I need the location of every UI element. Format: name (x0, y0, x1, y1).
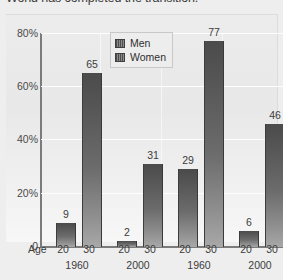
chart-title: World has completed the transition. (6, 0, 282, 5)
x-tick-age-3: 20 (113, 243, 135, 255)
legend-item-men[interactable]: Men (115, 36, 166, 50)
x-tick-age-4: 30 (139, 243, 161, 255)
y-axis-line (40, 33, 42, 247)
x-tick-year-2: 2000 (119, 259, 157, 271)
x-tick-age-6: 30 (200, 243, 222, 255)
bar-women-30-2000[interactable] (265, 124, 283, 247)
bar-women-30-1960[interactable] (204, 41, 224, 247)
x-tick-year-4: 2000 (241, 259, 279, 271)
x-tick-year-1: 1960 (58, 259, 96, 271)
bar-value-men-30-2000: 31 (138, 149, 168, 161)
legend-label-women: Women (130, 50, 166, 64)
x-tick-age-7: 20 (235, 243, 257, 255)
x-axis-age-caption: Age (28, 243, 47, 255)
x-tick-age-1: 20 (52, 243, 74, 255)
legend-swatch-men-icon (115, 39, 125, 48)
bar-men-30-1960[interactable] (82, 73, 102, 247)
x-tick-age-8: 30 (261, 243, 283, 255)
x-tick-year-3: 1960 (180, 259, 218, 271)
bar-women-20-1960[interactable] (178, 169, 198, 247)
bar-value-men-20-1960: 9 (51, 208, 81, 220)
bar-value-women-30-1960: 77 (199, 26, 229, 38)
x-axis-labels: Age 20 30 20 30 20 30 20 30 1960 2000 19… (6, 243, 283, 277)
legend-item-women[interactable]: Women (115, 50, 166, 64)
y-tick-40: 40% (8, 133, 38, 145)
gridline-40 (41, 139, 283, 140)
bar-men-30-2000[interactable] (143, 164, 163, 247)
bar-value-women-20-1960: 29 (173, 154, 203, 166)
legend-label-men: Men (130, 36, 150, 50)
bar-value-men-20-2000: 2 (112, 226, 142, 238)
x-tick-age-2: 30 (78, 243, 100, 255)
x-tick-age-5: 20 (174, 243, 196, 255)
bar-value-women-20-2000: 6 (234, 216, 264, 228)
y-tick-20: 20% (8, 187, 38, 199)
bar-value-women-30-2000: 46 (260, 109, 283, 121)
legend-swatch-women-icon (115, 53, 125, 62)
chart-legend: Men Women (110, 32, 173, 68)
gridline-60 (41, 86, 283, 87)
y-tick-60: 60% (8, 80, 38, 92)
bar-value-men-30-1960: 65 (77, 58, 107, 70)
bar-chart: World has completed the transition. 80% … (0, 0, 283, 280)
y-axis-tick-labels: 80% 60% 40% 20% 0 (6, 33, 38, 247)
y-tick-80: 80% (8, 27, 38, 39)
